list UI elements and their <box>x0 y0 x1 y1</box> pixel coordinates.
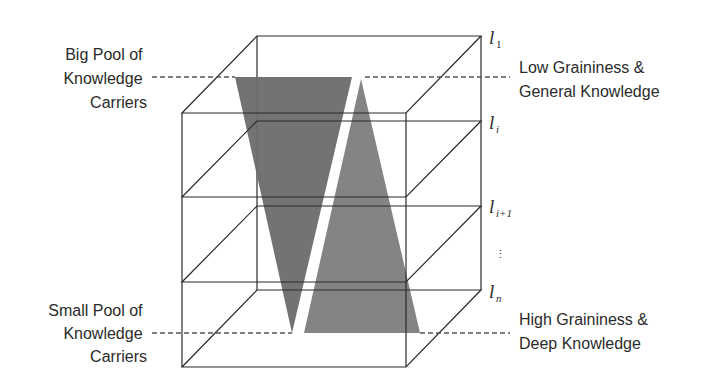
svg-text:n: n <box>496 292 502 304</box>
layered-knowledge-diagram: Big Pool of Knowledge Carriers Small Poo… <box>0 0 724 385</box>
svg-text:i: i <box>496 123 499 135</box>
layer-label-li1: l i+1 <box>489 196 512 219</box>
high-graininess-label: High Graininess & Deep Knowledge <box>519 311 652 352</box>
svg-text:l: l <box>489 112 494 133</box>
svg-text:l: l <box>489 27 494 48</box>
big-pool-label: Big Pool of Knowledge Carriers <box>63 46 147 111</box>
low-graininess-label: Low Graininess & General Knowledge <box>519 59 660 100</box>
svg-text:⋮: ⋮ <box>495 248 506 260</box>
layer-ellipsis: ⋮ <box>495 248 506 260</box>
layer-label-li: l i <box>489 112 499 135</box>
layer-label-ln: l n <box>489 281 502 304</box>
svg-text:i+1: i+1 <box>496 207 512 219</box>
svg-text:l: l <box>489 281 494 302</box>
layer-label-l1: l 1 <box>489 27 502 50</box>
svg-text:l: l <box>489 196 494 217</box>
svg-text:1: 1 <box>496 38 502 50</box>
small-pool-label: Small Pool of Knowledge Carriers <box>48 302 147 365</box>
